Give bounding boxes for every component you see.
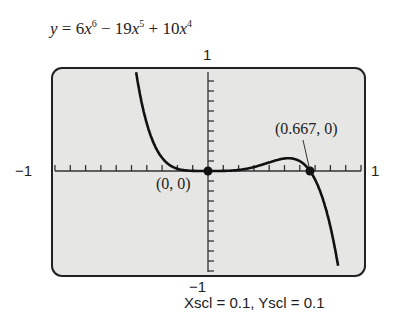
root-label: (0.667, 0) <box>275 120 338 138</box>
x-max-label: 1 <box>371 162 379 179</box>
y-min-label: −1 <box>189 278 206 295</box>
x-min-label: −1 <box>15 162 32 179</box>
scale-label: Xscl = 0.1, Yscl = 0.1 <box>184 294 325 311</box>
origin-label: (0, 0) <box>156 175 191 193</box>
root-point <box>306 167 315 176</box>
origin-point <box>204 167 213 176</box>
y-max-label: 1 <box>203 46 211 63</box>
